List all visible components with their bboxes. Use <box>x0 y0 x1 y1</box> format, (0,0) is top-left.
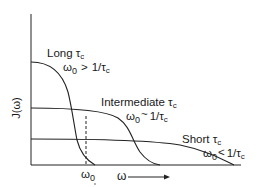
label-long-title: Long τc <box>47 47 84 61</box>
arrow-head-icon <box>164 175 170 180</box>
label-long-condition: ω0>1/τc <box>63 61 110 76</box>
y-axis-label: J(ω) <box>10 97 22 118</box>
omega0-tick-label: ω0 <box>81 168 95 183</box>
curve-long-tau <box>31 62 95 165</box>
x-axis-label: ω <box>117 169 126 183</box>
spectral-density-diagram: J(ω) Long τc ω0>1/τc Intermediate τc ω0~… <box>0 0 261 187</box>
label-short-title: Short τc <box>182 133 221 147</box>
label-intermediate-title: Intermediate τc <box>101 96 177 110</box>
label-intermediate-condition: ω0~1/τc <box>126 108 168 125</box>
